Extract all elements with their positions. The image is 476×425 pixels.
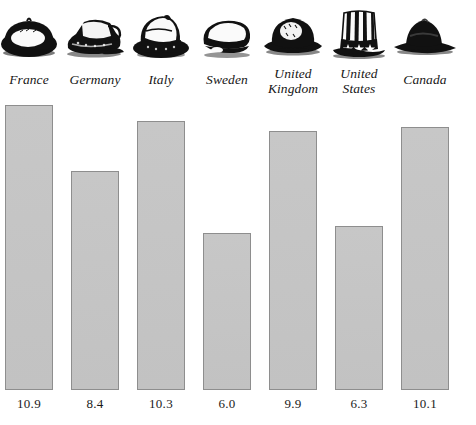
bar-container[interactable] [137,121,185,390]
category-label-line: United [256,66,330,81]
category-label-line: Canada [388,72,462,87]
chart-column: France 10.9 [0,0,62,425]
fedora-hat-icon [128,4,194,62]
wide-brim-fedora-hat-icon [392,4,458,62]
bowler-hat-icon [260,4,326,62]
bar-container[interactable] [335,226,383,390]
category-label: Italy [124,72,198,87]
beret-hat-icon [0,4,62,62]
category-label-line: Sweden [190,72,264,87]
chart-column: United States 6.3 [326,0,392,425]
bar[interactable] [335,226,383,390]
category-label: United Kingdom [256,66,330,96]
bar-value-label: 9.9 [256,396,330,412]
category-label: Sweden [190,72,264,87]
chart-column: Canada 10.1 [392,0,458,425]
stars-and-stripes-top-hat-icon [326,4,392,62]
chart-column: Germany 8.4 [62,0,128,425]
swedish-cap-hat-icon [194,4,260,62]
german-cap-hat-icon [62,4,128,62]
bar-value-label: 10.1 [388,396,462,412]
chart-column: United Kingdom 9.9 [260,0,326,425]
bar[interactable] [71,171,119,390]
bar[interactable] [269,131,317,390]
bar-value-label: 10.9 [0,396,66,412]
category-label-line: Italy [124,72,198,87]
category-label-line: Germany [58,72,132,87]
bar[interactable] [401,127,449,390]
bar-container[interactable] [269,131,317,390]
bar-chart: France 10.9 Germany [0,0,476,425]
category-label-line: Kingdom [256,81,330,96]
category-label: Canada [388,72,462,87]
bar-container[interactable] [203,233,251,390]
bar-value-label: 8.4 [58,396,132,412]
bar-container[interactable] [5,105,53,390]
bar-container[interactable] [71,171,119,390]
bar[interactable] [203,233,251,390]
category-label-line: States [322,81,396,96]
category-label-line: United [322,66,396,81]
bar-container[interactable] [401,127,449,390]
category-label: Germany [58,72,132,87]
bar-value-label: 6.3 [322,396,396,412]
bar[interactable] [5,105,53,390]
chart-column: Italy 10.3 [128,0,194,425]
bar-value-label: 10.3 [124,396,198,412]
bar-value-label: 6.0 [190,396,264,412]
bar[interactable] [137,121,185,390]
category-label-line: France [0,72,66,87]
category-label: United States [322,66,396,96]
chart-column: Sweden 6.0 [194,0,260,425]
category-label: France [0,72,66,87]
